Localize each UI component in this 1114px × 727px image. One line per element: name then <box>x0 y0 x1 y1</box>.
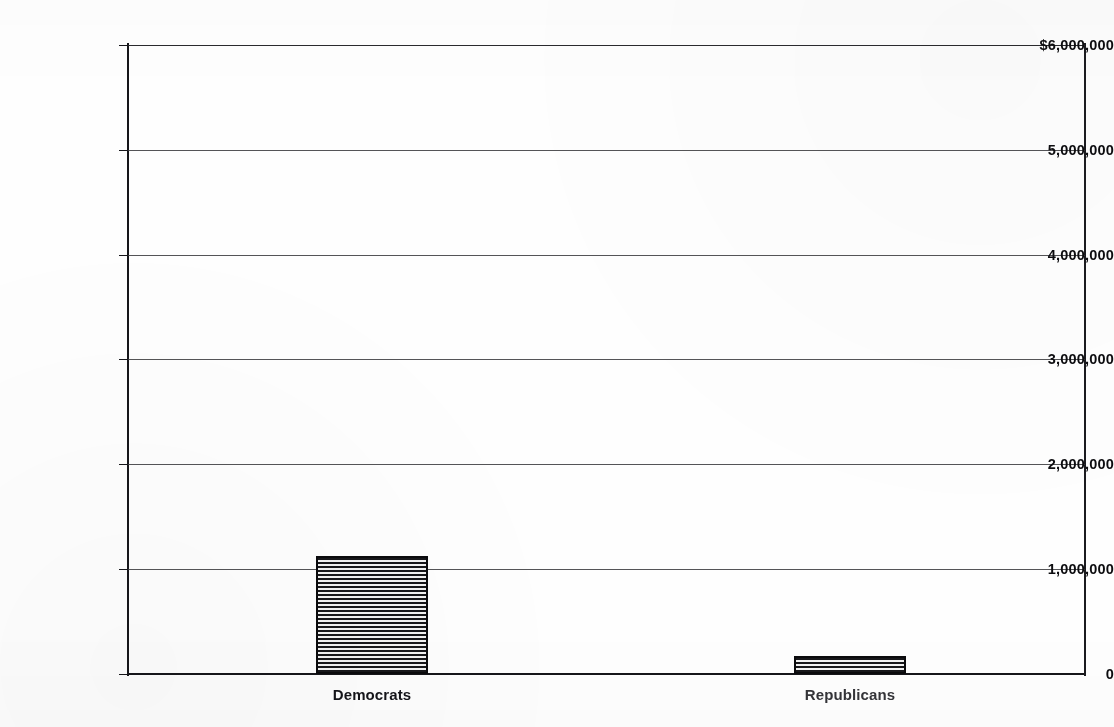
y-tick-mark-1000000 <box>119 569 128 570</box>
y-tick-mark-0 <box>119 674 128 675</box>
y-tick-mark-2000000 <box>119 464 128 465</box>
y-tick-mark-5000000 <box>119 150 128 151</box>
bar-democrats <box>316 556 428 674</box>
gridline-2000000 <box>128 464 1085 465</box>
y-axis-label-4000000: 4,000,000 <box>1002 247 1114 263</box>
y-tick-mark-3000000 <box>119 359 128 360</box>
y-axis-label-5000000: 5,000,000 <box>1002 142 1114 158</box>
gridline-3000000 <box>128 359 1085 360</box>
bar-chart-figure: $6,000,000 5,000,000 4,000,000 3,000,000… <box>0 0 1114 727</box>
x-axis-label-republicans: Republicans <box>730 686 970 703</box>
gridline-6000000 <box>128 45 1085 46</box>
gridline-1000000 <box>128 569 1085 570</box>
gridline-4000000 <box>128 255 1085 256</box>
y-tick-mark-6000000 <box>119 45 128 46</box>
gridline-5000000 <box>128 150 1085 151</box>
y-axis-label-0: 0 <box>1002 666 1114 682</box>
x-axis-baseline <box>127 673 1085 675</box>
y-axis-label-1000000: 1,000,000 <box>1002 561 1114 577</box>
x-axis-label-democrats: Democrats <box>252 686 492 703</box>
y-axis-label-2000000: 2,000,000 <box>1002 456 1114 472</box>
scanned-page: $6,000,000 5,000,000 4,000,000 3,000,000… <box>0 0 1114 727</box>
bar-republicans <box>794 656 906 674</box>
y-axis-label-6000000: $6,000,000 <box>1002 37 1114 53</box>
y-axis-label-3000000: 3,000,000 <box>1002 351 1114 367</box>
y-tick-mark-4000000 <box>119 255 128 256</box>
